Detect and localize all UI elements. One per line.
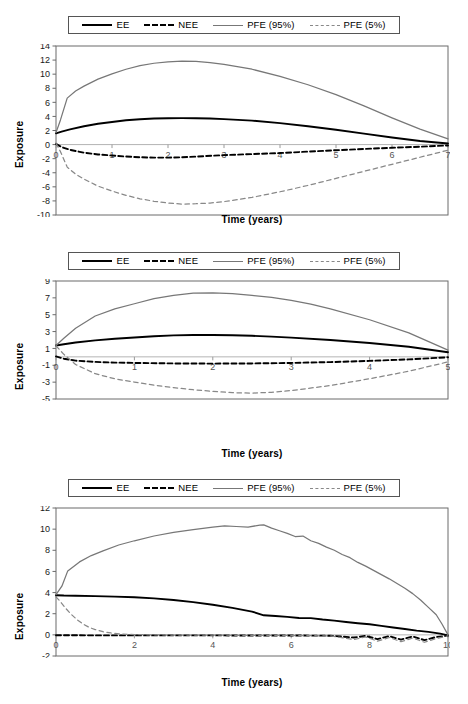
- legend-label-ee: EE: [116, 256, 129, 266]
- y-tick-label: -2: [42, 651, 50, 658]
- chart-svg-1: -10-8-6-4-20246810121401234567: [30, 44, 450, 217]
- y-tick-label: 10: [40, 69, 50, 79]
- y-tick-label: 4: [45, 112, 50, 122]
- y-tick-label: 12: [40, 55, 50, 65]
- series-line-pfe-95: [56, 61, 448, 139]
- chart-3-ylabel: Exposure: [14, 593, 25, 640]
- legend-swatch-ee: [82, 260, 112, 262]
- legend-swatch-pfe5: [310, 261, 340, 262]
- x-tick-label: 5: [445, 362, 450, 372]
- y-tick-label: 0: [45, 630, 50, 640]
- legend-entry-ee: EE: [82, 483, 129, 493]
- legend-label-ee: EE: [116, 20, 129, 30]
- legend-label-nee: NEE: [178, 20, 198, 30]
- legend-swatch-ee: [82, 24, 112, 26]
- y-tick-label: -1: [42, 360, 50, 370]
- legend-entry-pfe95: PFE (95%): [213, 20, 294, 30]
- x-tick-label: 8: [367, 640, 372, 650]
- chart-plot-3: -20246810120246810: [56, 508, 448, 656]
- chart-plot-1: -10-8-6-4-20246810121401234567: [56, 46, 448, 215]
- y-tick-label: -2: [42, 154, 50, 164]
- y-tick-label: 3: [45, 327, 50, 337]
- series-line-ee: [56, 595, 448, 635]
- y-tick-label: 14: [40, 44, 50, 51]
- legend-swatch-pfe95: [213, 261, 243, 262]
- legend-label-pfe5: PFE (5%): [344, 256, 386, 266]
- legend-label-nee: NEE: [178, 483, 198, 493]
- x-tick-label: 6: [289, 640, 294, 650]
- y-tick-label: 2: [45, 126, 50, 136]
- plot-frame: [56, 281, 448, 399]
- legend-swatch-pfe5: [310, 25, 340, 26]
- chart-1-xlabel: Time (years): [56, 214, 448, 225]
- legend-entry-ee: EE: [82, 256, 129, 266]
- legend-swatch-nee: [144, 487, 174, 489]
- series-line-ee: [56, 118, 448, 143]
- legend-label-pfe95: PFE (95%): [247, 20, 294, 30]
- legend-swatch-ee: [82, 487, 112, 489]
- series-line-pfe-5: [56, 346, 448, 393]
- y-tick-label: -5: [42, 394, 50, 401]
- chart-2-ylabel: Exposure: [14, 343, 25, 390]
- chart-legend-3: EENEEPFE (95%)PFE (5%): [68, 479, 400, 497]
- legend-label-pfe5: PFE (5%): [344, 20, 386, 30]
- legend-entry-pfe5: PFE (5%): [310, 483, 386, 493]
- y-tick-label: 2: [45, 609, 50, 619]
- y-tick-label: 9: [45, 279, 50, 286]
- legend-label-ee: EE: [116, 483, 129, 493]
- legend-swatch-nee: [144, 24, 174, 26]
- legend-swatch-pfe95: [213, 25, 243, 26]
- legend-entry-pfe95: PFE (95%): [213, 256, 294, 266]
- legend-entry-nee: NEE: [144, 483, 198, 493]
- y-tick-label: -3: [42, 377, 50, 387]
- y-tick-label: 6: [45, 98, 50, 108]
- legend-swatch-pfe95: [213, 488, 243, 489]
- legend-label-pfe95: PFE (95%): [247, 483, 294, 493]
- legend-entry-ee: EE: [82, 20, 129, 30]
- legend-label-nee: NEE: [178, 256, 198, 266]
- chart-plot-2: -5-3-113579012345: [56, 281, 448, 399]
- y-tick-label: 12: [40, 506, 50, 513]
- plot-frame: [56, 46, 448, 215]
- y-tick-label: -6: [42, 182, 50, 192]
- legend-entry-nee: NEE: [144, 256, 198, 266]
- chart-legend-2: EENEEPFE (95%)PFE (5%): [68, 252, 400, 270]
- x-tick-label: 10: [443, 640, 450, 650]
- series-line-ee: [56, 335, 448, 352]
- legend-swatch-pfe5: [310, 488, 340, 489]
- legend-label-pfe5: PFE (5%): [344, 483, 386, 493]
- chart-svg-2: -5-3-113579012345: [30, 279, 450, 401]
- x-tick-label: 4: [367, 362, 372, 372]
- series-line-pfe-95: [56, 525, 448, 635]
- series-line-nee: [56, 356, 448, 363]
- x-tick-label: 4: [277, 150, 282, 160]
- x-tick-label: 0: [53, 150, 58, 160]
- x-tick-label: 0: [53, 362, 58, 372]
- x-tick-label: 4: [210, 640, 215, 650]
- series-line-pfe-95: [56, 293, 448, 350]
- y-tick-label: 7: [45, 293, 50, 303]
- y-tick-label: 1: [45, 344, 50, 354]
- y-tick-label: -4: [42, 168, 50, 178]
- legend-entry-pfe95: PFE (95%): [213, 483, 294, 493]
- chart-1-ylabel: Exposure: [14, 121, 25, 168]
- chart-3-xlabel: Time (years): [56, 677, 448, 688]
- y-tick-label: 10: [40, 524, 50, 534]
- x-tick-label: 2: [132, 640, 137, 650]
- legend-label-pfe95: PFE (95%): [247, 256, 294, 266]
- y-tick-label: 4: [45, 588, 50, 598]
- chart-2-xlabel: Time (years): [56, 448, 448, 459]
- y-tick-label: -10: [37, 210, 50, 217]
- y-tick-label: 6: [45, 567, 50, 577]
- y-tick-label: 8: [45, 545, 50, 555]
- y-tick-label: 0: [45, 140, 50, 150]
- legend-entry-pfe5: PFE (5%): [310, 20, 386, 30]
- y-tick-label: -8: [42, 196, 50, 206]
- legend-entry-pfe5: PFE (5%): [310, 256, 386, 266]
- x-tick-label: 0: [53, 640, 58, 650]
- legend-entry-nee: NEE: [144, 20, 198, 30]
- legend-swatch-nee: [144, 260, 174, 262]
- y-tick-label: 5: [45, 310, 50, 320]
- x-tick-label: 6: [389, 150, 394, 160]
- y-tick-label: 8: [45, 83, 50, 93]
